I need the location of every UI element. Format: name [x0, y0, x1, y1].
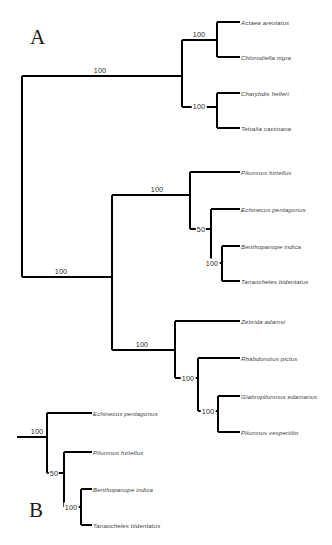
support-value: 50 [196, 225, 206, 234]
support-value: 100 [64, 503, 79, 512]
tree-branches-svg [0, 0, 332, 545]
support-value: 100 [192, 30, 207, 39]
tip-label: Tanaocheles bidentatus [241, 278, 308, 285]
tip-label: Rhabdonotus pictus [241, 355, 298, 362]
support-value: 100 [30, 427, 45, 436]
support-value: 100 [150, 185, 165, 194]
tip-label: Pilumnus hirtellus [241, 169, 291, 176]
support-value: 100 [135, 340, 150, 349]
support-value: 100 [201, 407, 216, 416]
tip-label: Zebrida adamsi [241, 318, 285, 325]
support-value: 100 [93, 66, 108, 75]
support-value: 100 [192, 102, 207, 111]
tip-label: Pilumnus hirtellus [93, 449, 143, 456]
tip-label: Benthopanope indica [93, 486, 153, 493]
tip-label: Echinecus pentagonus [93, 410, 158, 417]
support-value: 50 [49, 469, 59, 478]
tip-label: Glabropilumnus edamanus [241, 393, 317, 400]
tip-label: Charybdis helleri [241, 90, 289, 97]
phylogenetic-tree-figure: A B Actaea areolatus Chlorodiella nigra … [0, 0, 332, 545]
tip-label: Pilumnus vespertilio [241, 429, 298, 436]
support-value: 100 [205, 259, 220, 268]
tip-label: Echinecus pentagonus [241, 206, 306, 213]
tip-label: Tetralia cavimana [241, 125, 291, 132]
tree-a-branches [22, 22, 240, 432]
tip-label: Actaea areolatus [241, 19, 289, 26]
tip-label: Tanaocheles bidentatus [93, 522, 160, 529]
support-value: 100 [54, 267, 69, 276]
tip-label: Benthopanope indica [241, 243, 301, 250]
panel-letter-a: A [30, 27, 45, 48]
support-value: 100 [181, 374, 196, 383]
tip-label: Chlorodiella nigra [241, 54, 291, 61]
panel-letter-b: B [29, 500, 43, 521]
